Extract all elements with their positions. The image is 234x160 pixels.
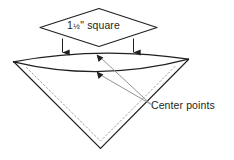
center-points-label: Center points <box>151 100 215 111</box>
diagram-canvas: 1½" square Center points <box>0 0 234 160</box>
square-size-unit: " square <box>80 19 120 31</box>
square-size-label: 1½" square <box>67 20 120 31</box>
